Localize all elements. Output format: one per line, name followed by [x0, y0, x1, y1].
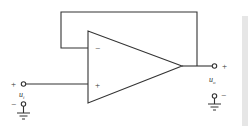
output-ground-icon — [208, 98, 221, 110]
input-plus-terminal — [21, 82, 25, 86]
input-minus-terminal — [21, 102, 25, 106]
inverting-input-label: − — [95, 43, 100, 53]
op-amp-triangle — [88, 31, 182, 103]
op-amp-circuit: − + + − ui + − uo — [0, 0, 248, 130]
input-voltage-label: ui — [19, 90, 25, 100]
feedback-wire — [61, 12, 197, 66]
output-minus-label: − — [221, 90, 226, 100]
noninverting-input-label: + — [95, 80, 100, 90]
output-voltage-label: uo — [209, 75, 216, 85]
input-minus-label: − — [11, 99, 16, 109]
input-ground-icon — [17, 106, 30, 119]
output-plus-terminal — [212, 64, 216, 68]
output-plus-label: + — [222, 61, 227, 71]
output-minus-terminal — [212, 94, 216, 98]
input-plus-label: + — [11, 79, 16, 89]
